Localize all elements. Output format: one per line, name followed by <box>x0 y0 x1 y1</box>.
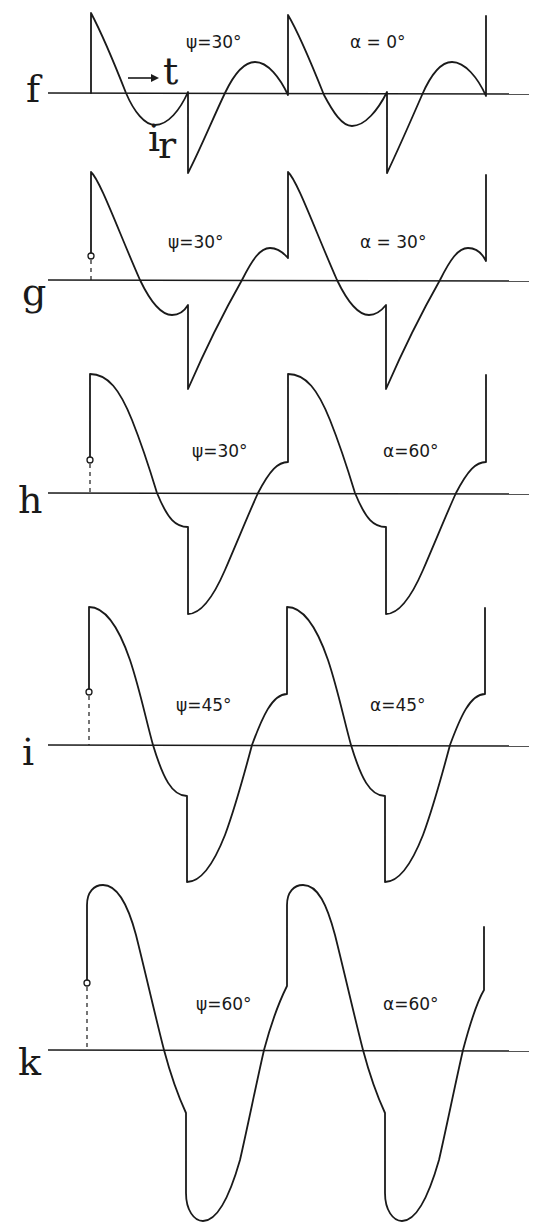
panel-g: gψ=30°α = 30° <box>22 172 529 389</box>
arrow-head-icon <box>151 74 159 82</box>
alpha-angle-label: α = 0° <box>350 32 406 52</box>
current-subscript: r <box>158 123 177 167</box>
panel-h: hψ=30°α=60° <box>18 374 529 614</box>
psi-angle-label: ψ=30° <box>186 32 242 52</box>
panel-letter: h <box>18 478 42 522</box>
time-axis <box>48 745 529 746</box>
psi-angle-label: ψ=30° <box>168 232 224 252</box>
psi-angle-label: ψ=60° <box>196 994 252 1014</box>
firing-point-marker-icon <box>86 689 92 695</box>
time-axis <box>48 280 529 281</box>
panel-letter: k <box>18 1040 42 1084</box>
alpha-angle-label: α=60° <box>383 441 439 461</box>
panel-letter: i <box>22 730 34 774</box>
waveform-figure: t i r fψ=30°α = 0°gψ=30°α = 30°hψ=30°α=6… <box>0 0 540 1231</box>
panel-letter: g <box>22 270 46 314</box>
panel-letter: f <box>26 67 43 111</box>
psi-angle-label: ψ=45° <box>176 695 232 715</box>
time-axis <box>48 1050 529 1051</box>
panel-i: iψ=45°α=45° <box>22 607 529 882</box>
time-arrow-annotation: t <box>128 49 178 93</box>
panel-f: fψ=30°α = 0° <box>26 13 529 173</box>
waveform-diagram: t i r fψ=30°α = 0°gψ=30°α = 30°hψ=30°α=6… <box>0 0 540 1231</box>
time-label: t <box>163 49 178 93</box>
panel-k: kψ=60°α=60° <box>18 885 529 1221</box>
current-waveform <box>87 885 484 1221</box>
firing-point-marker-icon <box>87 457 93 463</box>
alpha-angle-label: α=45° <box>370 695 426 715</box>
psi-angle-label: ψ=30° <box>192 441 248 461</box>
firing-point-marker-icon <box>84 980 90 986</box>
alpha-angle-label: α = 30° <box>360 232 426 252</box>
firing-point-marker-icon <box>88 253 94 259</box>
alpha-angle-label: α=60° <box>383 994 439 1014</box>
panels-group: fψ=30°α = 0°gψ=30°α = 30°hψ=30°α=60°iψ=4… <box>18 13 529 1221</box>
